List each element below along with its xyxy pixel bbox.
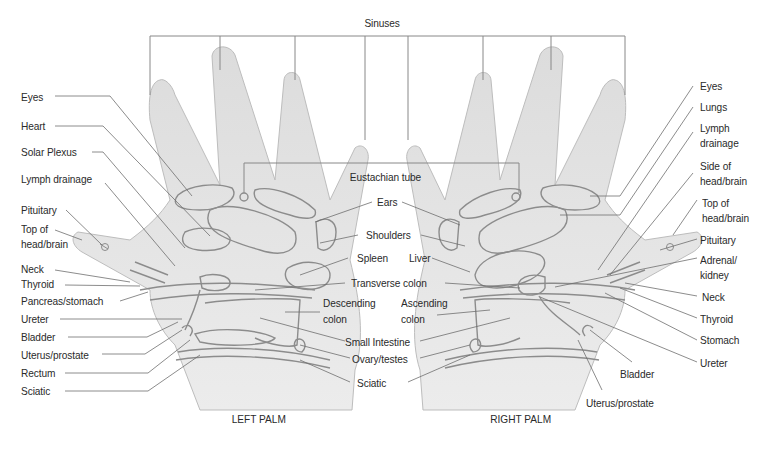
right-label-uterus-prostate: Uterus/prostate — [586, 396, 654, 410]
left-label-lymph-drainage: Lymph drainage — [21, 172, 92, 186]
label-small-intestine: Small Intestine — [345, 335, 410, 349]
right-label-lymph: Lymph — [700, 121, 730, 135]
right-label-top-head-brain: head/brain — [702, 211, 749, 225]
left-label-solar-plexus: Solar Plexus — [21, 145, 77, 159]
label-shoulders: Shoulders — [366, 228, 411, 242]
left-hand-silhouette — [73, 47, 368, 410]
left-label-neck: Neck — [21, 262, 44, 276]
left-label-heart: Heart — [21, 119, 45, 133]
left-palm-caption: LEFT PALM — [232, 413, 286, 425]
left-label-top-of: Top of — [21, 222, 48, 236]
label-ears: Ears — [377, 195, 397, 209]
right-label-side-head-brain: head/brain — [700, 174, 747, 188]
right-label-bladder: Bladder — [620, 367, 654, 381]
right-label-top-of: Top of — [702, 196, 729, 210]
right-label-drainage: drainage — [700, 136, 739, 150]
left-label-eyes: Eyes — [21, 90, 43, 104]
left-label-pituitary: Pituitary — [21, 203, 57, 217]
left-label-uterus-prostate: Uterus/prostate — [21, 348, 89, 362]
label-ascending-colon-2: colon — [401, 312, 425, 326]
label-liver: Liver — [409, 251, 431, 265]
right-label-eyes: Eyes — [700, 79, 722, 93]
left-label-sciatic: Sciatic — [21, 384, 50, 398]
right-label-stomach: Stomach — [700, 333, 739, 347]
right-label-kidney: kidney — [700, 268, 729, 282]
right-palm-caption: RIGHT PALM — [490, 413, 551, 425]
hand-reflexology-diagram: Sinuses Eustachian tube Eyes Heart Solar… — [0, 0, 775, 449]
left-label-rectum: Rectum — [21, 366, 55, 380]
right-label-ureter: Ureter — [700, 356, 728, 370]
label-descending-colon-2: colon — [323, 312, 347, 326]
right-hand-silhouette — [407, 47, 702, 410]
right-label-side-of: Side of — [700, 159, 731, 173]
left-label-thyroid: Thyroid — [21, 277, 54, 291]
left-hand — [73, 47, 368, 410]
hands-illustration — [0, 0, 775, 449]
left-label-pancreas-stomach: Pancreas/stomach — [21, 294, 103, 308]
left-label-bladder: Bladder — [21, 330, 55, 344]
label-ovary-testes: Ovary/testes — [352, 352, 408, 366]
label-ascending-colon-1: Ascending — [401, 296, 447, 310]
label-transverse-colon: Transverse colon — [351, 276, 427, 290]
right-label-pituitary: Pituitary — [700, 233, 736, 247]
label-spleen: Spleen — [357, 251, 388, 265]
right-label-thyroid: Thyroid — [700, 312, 733, 326]
left-label-ureter: Ureter — [21, 312, 49, 326]
label-descending-colon-1: Descending — [323, 296, 376, 310]
sinuses-label: Sinuses — [364, 16, 399, 30]
right-label-neck: Neck — [702, 290, 725, 304]
right-label-lungs: Lungs — [700, 100, 727, 114]
eustachian-tube-label: Eustachian tube — [350, 170, 421, 184]
right-hand — [407, 47, 702, 410]
right-label-adrenal: Adrenal/ — [700, 253, 737, 267]
left-label-head-brain: head/brain — [21, 237, 68, 251]
label-sciatic-center: Sciatic — [357, 376, 386, 390]
